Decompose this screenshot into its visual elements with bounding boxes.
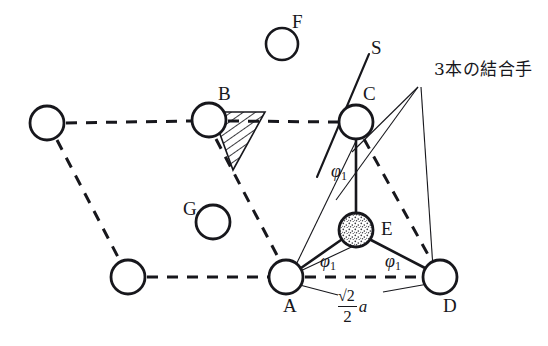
crystal-lattice-figure: B F C G E A D S 3本の結合手 φ1 φ1 φ1 √2 2 a xyxy=(0,0,548,346)
phi-symbol: φ xyxy=(320,251,330,271)
atom-label-B: B xyxy=(218,84,231,103)
atom-G xyxy=(196,205,230,239)
atom-E xyxy=(339,213,373,247)
atom-label-G: G xyxy=(183,199,197,218)
atom-F xyxy=(266,28,298,60)
bond-lines-from-E xyxy=(301,140,425,268)
angle-label-phi-bottom-right: φ1 xyxy=(385,252,401,272)
atom-B xyxy=(192,103,226,137)
atom-label-E: E xyxy=(381,219,393,238)
edge-topleft-to-B xyxy=(66,121,191,123)
atom-label-C: C xyxy=(363,84,376,103)
bonds-note-label: 3本の結合手 xyxy=(434,61,533,78)
bond-length-variable: a xyxy=(359,297,368,317)
atom-C xyxy=(339,105,373,139)
edge-topleft-to-bottomleft xyxy=(57,140,119,259)
angle-label-phi-top: φ1 xyxy=(331,162,347,182)
lattice-drawing xyxy=(0,0,548,346)
s-axis-label: S xyxy=(371,38,382,57)
phi-subscript: 1 xyxy=(395,259,401,273)
edge-B-to-A xyxy=(216,139,279,259)
atom-top-left xyxy=(30,106,64,140)
atom-label-D: D xyxy=(443,296,457,315)
bond-length-fraction: √2 2 xyxy=(338,288,357,326)
construction-D-short-left xyxy=(383,284,428,292)
phi-symbol: φ xyxy=(331,161,341,181)
atom-D xyxy=(423,260,457,294)
bond-length-label: √2 2 a xyxy=(338,288,367,326)
bond-length-numerator: √2 xyxy=(338,288,357,305)
bond-length-denominator: 2 xyxy=(338,308,357,326)
atom-label-A: A xyxy=(283,296,297,315)
construction-A-short-right xyxy=(296,284,338,295)
atom-label-F: F xyxy=(292,12,303,31)
angle-label-phi-bottom-left: φ1 xyxy=(320,252,336,272)
phi-subscript: 1 xyxy=(330,259,336,273)
phi-subscript: 1 xyxy=(341,169,347,183)
phi-symbol: φ xyxy=(385,251,395,271)
atom-bottom-left xyxy=(111,260,145,294)
atom-A xyxy=(269,260,303,294)
leader-to-D-bond xyxy=(421,87,433,268)
